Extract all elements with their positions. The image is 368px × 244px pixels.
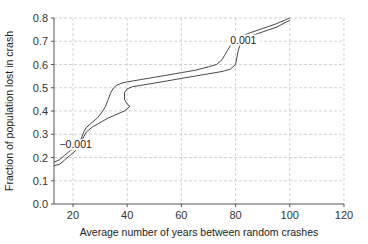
x-tick-label: 40	[121, 209, 133, 221]
contour-label: 0.001	[230, 34, 256, 46]
y-tick-label: 0.2	[33, 152, 48, 164]
y-tick-label: 0.0	[33, 198, 48, 210]
x-axis-label: Average number of years between random c…	[80, 226, 319, 238]
y-tick-label: 0.8	[33, 12, 48, 24]
x-tick-label: 80	[229, 209, 241, 221]
x-tick-label: 100	[281, 209, 299, 221]
y-axis-label: Fraction of population lost in crash	[3, 31, 15, 191]
contour-label: −0.001	[59, 138, 92, 150]
line-chart: 0.00.10.20.30.40.50.60.70.8 204060801001…	[0, 0, 368, 244]
grid-lines	[54, 18, 344, 204]
x-tick-label: 20	[67, 209, 79, 221]
y-tick-label: 0.1	[33, 175, 48, 187]
x-tick-label: 120	[335, 209, 353, 221]
contour-annotations: −0.0010.001	[58, 34, 260, 151]
y-tick-label: 0.6	[33, 59, 48, 71]
y-tick-label: 0.3	[33, 128, 48, 140]
y-axis-ticks: 0.00.10.20.30.40.50.60.70.8	[33, 12, 54, 210]
y-tick-label: 0.4	[33, 105, 48, 117]
x-tick-label: 60	[175, 209, 187, 221]
y-tick-label: 0.7	[33, 35, 48, 47]
y-tick-label: 0.5	[33, 82, 48, 94]
x-axis-ticks: 20406080100120	[67, 204, 353, 221]
